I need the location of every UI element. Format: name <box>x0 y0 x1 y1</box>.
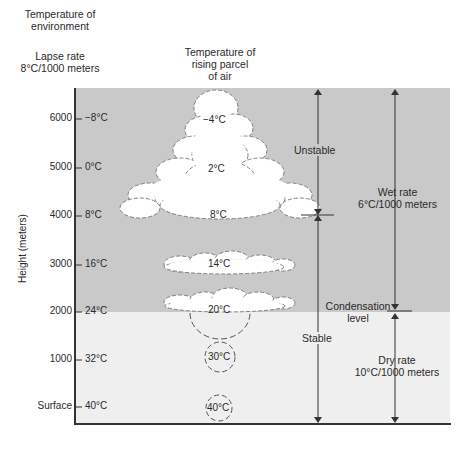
parcel-temp-surface: 40°C <box>207 402 229 413</box>
height-3000: 3000 <box>50 258 72 269</box>
parcel-temp-3000: 14°C <box>208 258 230 269</box>
env-temp-4000: 8°C <box>85 209 102 220</box>
height-4000: 4000 <box>50 209 72 220</box>
height-surface: Surface <box>38 400 72 411</box>
env-temp-5000: 0°C <box>85 161 102 172</box>
dry-rate-line1: Dry rate <box>352 354 442 366</box>
parcel-temp-2000: 20°C <box>208 304 230 315</box>
dry-rate-label: Dry rate 10°C/1000 meters <box>352 354 442 378</box>
env-temp-6000: −8°C <box>85 112 108 123</box>
dry-rate-line2: 10°C/1000 meters <box>352 366 442 378</box>
unstable-label: Unstable <box>294 144 335 156</box>
diagram-graphics <box>0 0 470 449</box>
wet-rate-line2: 6°C/1000 meters <box>355 198 440 210</box>
condensation-label: Condensation level <box>323 300 393 324</box>
parcel-circle-20c <box>190 313 250 339</box>
parcel-temp-6000: −4°C <box>203 114 226 125</box>
wet-rate-label: Wet rate 6°C/1000 meters <box>355 186 440 210</box>
height-1000: 1000 <box>50 353 72 364</box>
y-axis-label: Height (meters) <box>17 214 28 283</box>
y-axis-line <box>74 88 76 425</box>
parcel-temp-1000: 30°C <box>208 351 230 362</box>
parcel-temp-4000: 8°C <box>210 209 227 220</box>
env-temp-3000: 16°C <box>85 258 107 269</box>
condensation-line2: level <box>323 312 393 324</box>
env-temp-surface: 40°C <box>85 400 107 411</box>
height-2000: 2000 <box>50 305 72 316</box>
wet-rate-line1: Wet rate <box>355 186 440 198</box>
condensation-line1: Condensation <box>323 300 393 312</box>
stable-label: Stable <box>302 332 332 344</box>
env-temp-2000: 24°C <box>85 305 107 316</box>
env-temp-1000: 32°C <box>85 353 107 364</box>
height-5000: 5000 <box>50 161 72 172</box>
height-6000: 6000 <box>50 112 72 123</box>
parcel-temp-5000: 2°C <box>208 163 225 174</box>
x-axis-line <box>74 423 451 425</box>
